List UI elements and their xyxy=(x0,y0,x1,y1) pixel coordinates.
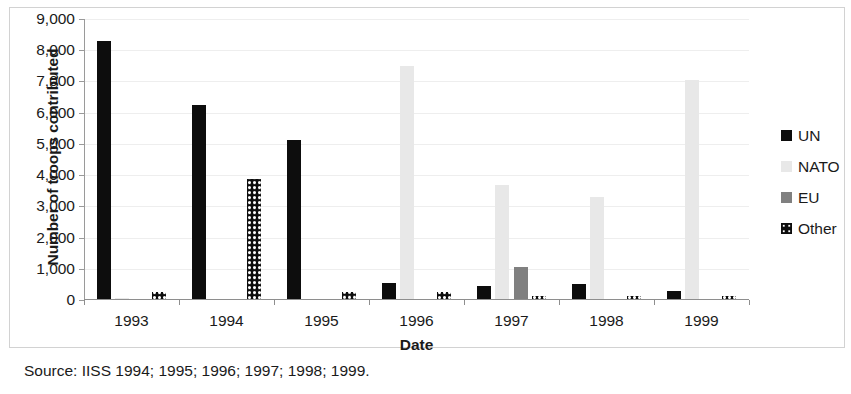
bar-nato-1996 xyxy=(400,66,414,300)
x-tick-label: 1995 xyxy=(304,313,338,329)
y-tick-label: 6,000 xyxy=(36,105,75,121)
bar-un-1997 xyxy=(477,286,491,300)
gridline xyxy=(84,19,749,20)
legend-item-nato[interactable]: NATO xyxy=(781,151,851,182)
x-tick-mark xyxy=(559,300,560,305)
bar-un-1995 xyxy=(287,140,301,300)
bar-nato-1997 xyxy=(495,185,509,300)
legend-swatch-un-icon xyxy=(781,130,792,141)
plot-area: 01,0002,0003,0004,0005,0006,0007,0008,00… xyxy=(84,19,749,300)
bar-un-1993 xyxy=(97,41,111,300)
y-tick-label: 7,000 xyxy=(36,74,75,90)
y-tick-label: 9,000 xyxy=(36,11,75,27)
gridline xyxy=(84,238,749,239)
chart-legend: UNNATOEUOther xyxy=(781,120,851,244)
x-tick-label: 1993 xyxy=(114,313,148,329)
bar-un-1998 xyxy=(572,284,586,300)
chart-frame: Number of troops contributed 01,0002,000… xyxy=(9,7,845,348)
gridline xyxy=(84,144,749,145)
bar-other-1994 xyxy=(247,179,261,300)
gridline xyxy=(84,50,749,51)
x-axis-title: Date xyxy=(84,336,749,354)
y-tick-label: 2,000 xyxy=(36,230,75,246)
legend-swatch-other-icon xyxy=(781,223,792,234)
legend-label: NATO xyxy=(798,159,840,175)
gridline xyxy=(84,269,749,270)
bar-un-1996 xyxy=(382,283,396,300)
x-tick-mark xyxy=(369,300,370,305)
legend-label: EU xyxy=(798,190,820,206)
bar-nato-1999 xyxy=(685,80,699,300)
y-axis-title: Number of troops contributed xyxy=(44,22,62,292)
x-tick-mark xyxy=(179,300,180,305)
y-tick-label: 0 xyxy=(66,292,75,308)
legend-swatch-eu-icon xyxy=(781,192,792,203)
x-tick-mark xyxy=(749,300,750,305)
gridline xyxy=(84,113,749,114)
y-tick-label: 3,000 xyxy=(36,199,75,215)
gridline xyxy=(84,81,749,82)
y-axis-line xyxy=(84,19,85,300)
x-tick-label: 1997 xyxy=(494,313,528,329)
gridline xyxy=(84,175,749,176)
y-tick-label: 8,000 xyxy=(36,42,75,58)
gridline xyxy=(84,206,749,207)
source-caption: Source: IISS 1994; 1995; 1996; 1997; 199… xyxy=(24,362,370,380)
x-tick-mark xyxy=(84,300,85,305)
bar-un-1994 xyxy=(192,105,206,300)
x-tick-mark xyxy=(274,300,275,305)
y-tick-label: 1,000 xyxy=(36,261,75,277)
y-tick-label: 4,000 xyxy=(36,167,75,183)
bar-eu-1997 xyxy=(514,267,528,300)
x-tick-label: 1994 xyxy=(209,313,243,329)
plot-inner: 01,0002,0003,0004,0005,0006,0007,0008,00… xyxy=(84,19,749,300)
y-tick-label: 5,000 xyxy=(36,136,75,152)
x-tick-label: 1996 xyxy=(399,313,433,329)
bar-nato-1998 xyxy=(590,197,604,300)
legend-label: UN xyxy=(798,128,820,144)
legend-label: Other xyxy=(798,221,837,237)
x-axis-line xyxy=(84,299,749,300)
x-tick-mark xyxy=(654,300,655,305)
x-tick-label: 1998 xyxy=(589,313,623,329)
x-tick-mark xyxy=(464,300,465,305)
legend-item-other[interactable]: Other xyxy=(781,213,851,244)
legend-swatch-nato-icon xyxy=(781,161,792,172)
legend-item-eu[interactable]: EU xyxy=(781,182,851,213)
legend-item-un[interactable]: UN xyxy=(781,120,851,151)
x-tick-label: 1999 xyxy=(684,313,718,329)
